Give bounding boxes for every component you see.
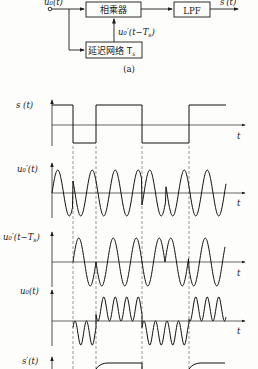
input-terminal [48,7,52,11]
lpf-label: LPF [183,6,200,16]
t-label-u0p: t [237,198,241,208]
delayed-signal-label: u₀′(t−Ts) [118,27,155,38]
dpsk-demodulator-figure: u₀(t) 相乘器 LPF s′(t) u₀′(t−Ts) 延迟网络 Ts (a… [0,0,258,369]
waveform-axes [52,100,245,369]
input-label: u₀(t) [44,0,63,7]
t-label-u0: t [237,326,241,336]
sp-label: s′(t) [22,356,38,366]
waveform-traces [52,105,226,369]
u0p-delayed-label: u₀′(t−Ts) [3,232,40,243]
t-label-s: t [237,131,241,141]
branch-line [69,9,82,50]
multiplier-label: 相乘器 [100,4,127,15]
t-label-u0p-delayed: t [237,268,241,278]
u0p-label: u₀′(t) [17,164,38,174]
output-label: s′(t) [220,0,236,7]
s-label: s (t) [16,100,33,110]
caption: (a) [123,64,135,74]
u0-label: u₀(t) [20,286,39,296]
delay-label: 延迟网络 Ts [88,45,136,57]
